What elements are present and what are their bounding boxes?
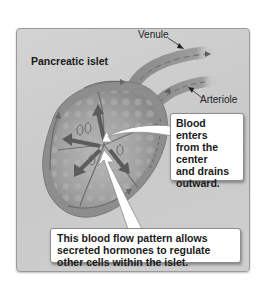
callout-flow-pattern: This blood flow pattern allows secreted … — [50, 228, 241, 263]
callout1-line: Blood enters — [176, 117, 238, 141]
callout1-line: outward. — [176, 177, 238, 189]
callout2-line: This blood flow pattern allows — [57, 232, 235, 244]
callout2-line: other cells within the islet. — [57, 256, 235, 268]
arteriole-label: Arteriole — [200, 94, 237, 105]
callout1-line: center — [176, 153, 238, 165]
islet-body — [43, 79, 168, 217]
islet-title-label: Pancreatic islet — [31, 55, 108, 67]
callout-blood-enters: Blood enters from the center and drains … — [170, 113, 244, 181]
venule-label: Venule — [138, 29, 169, 40]
venule-leader — [168, 38, 180, 46]
callout1-line: and drains — [176, 165, 238, 177]
callout1-line: from the — [176, 141, 238, 153]
callout2-line: secreted hormones to regulate — [57, 244, 235, 256]
